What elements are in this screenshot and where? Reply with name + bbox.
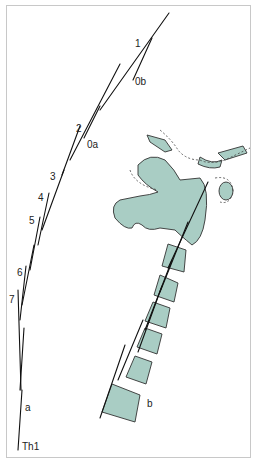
occipital-fragment [147, 135, 172, 152]
label-1: 1 [135, 38, 141, 49]
label-b: b [147, 398, 153, 409]
label-2: 2 [76, 123, 82, 134]
label-0b: 0b [135, 76, 147, 87]
vertebra-c7 [126, 356, 152, 384]
spine-diagram: 1 0b 2 0a 3 4 5 6 7 a Th1 b [0, 0, 255, 470]
labels: 1 0b 2 0a 3 4 5 6 7 a Th1 b [9, 38, 153, 452]
occipital-condyle [218, 146, 247, 160]
label-5: 5 [29, 215, 35, 226]
label-0a: 0a [87, 139, 99, 150]
label-7: 7 [9, 294, 15, 305]
panel-b-vertebrae [102, 135, 247, 422]
atlas-arch [198, 157, 222, 168]
label-th1: Th1 [22, 441, 40, 452]
axis-vertebra [113, 157, 206, 245]
vertebra-c6 [137, 328, 162, 354]
panel-a-tangent-lines [18, 13, 169, 450]
vertebra-c5 [145, 302, 170, 328]
label-3: 3 [50, 171, 56, 182]
label-a: a [25, 402, 31, 413]
label-4: 4 [38, 192, 44, 203]
label-6: 6 [17, 267, 23, 278]
vertebra-th1 [102, 384, 140, 422]
